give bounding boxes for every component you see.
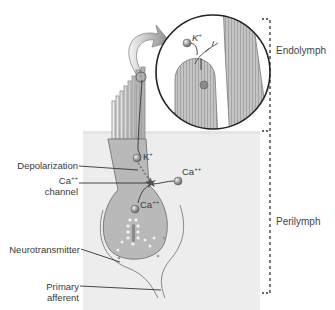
neurotransmitter-label: Neurotransmitter <box>0 244 80 255</box>
primary-afferent-label: Primary afferent <box>10 281 79 303</box>
k-ion-main-label: K+ <box>143 151 153 162</box>
perilymph-label: Perilymph <box>276 216 320 227</box>
k-ion-main <box>133 154 141 162</box>
magnified-inset <box>150 0 280 140</box>
ca-ion-outside <box>174 177 182 185</box>
ca-channel-label: Ca++ channel <box>10 175 78 197</box>
ca-ion-inside-label: Ca++ <box>140 199 159 210</box>
k-ion-inset <box>183 39 191 47</box>
hair-cell-transduction-diagram: Endolymph Perilymph Depolarization Ca++ … <box>0 0 335 310</box>
ca-ion-outside-label: Ca++ <box>182 166 201 177</box>
ca-ion-inside <box>131 205 139 213</box>
synaptic-ribbon <box>132 224 135 242</box>
depolarization-label: Depolarization <box>10 160 78 171</box>
k-ion-inset-label: K+ <box>192 32 202 43</box>
endolymph-label: Endolymph <box>276 45 326 56</box>
k-ion-inset-internal <box>200 81 208 89</box>
